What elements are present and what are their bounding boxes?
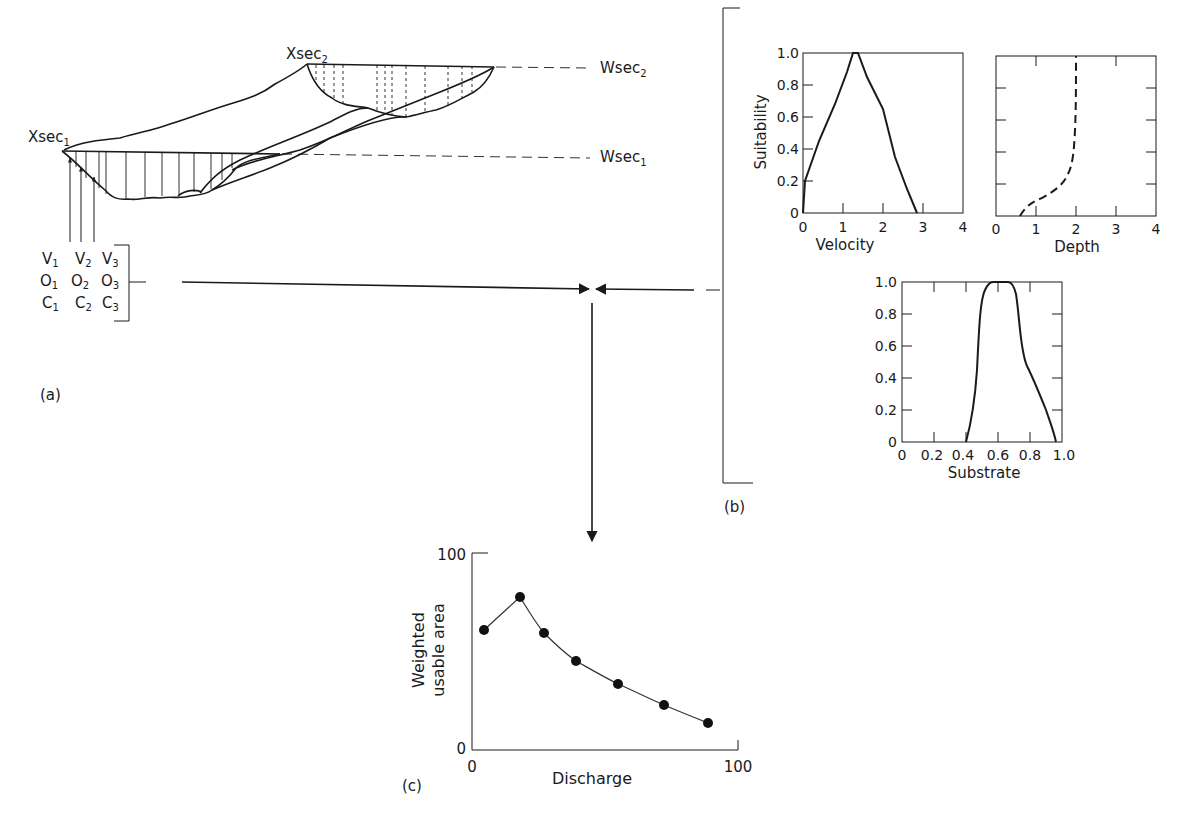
svg-text:0: 0 xyxy=(888,434,897,450)
wsec2-label: Wsec2 xyxy=(600,59,647,79)
svg-text:3: 3 xyxy=(919,219,928,235)
depth-axis-title: Depth xyxy=(1054,238,1100,256)
wsec1-dashed-line xyxy=(282,154,590,158)
svg-text:0: 0 xyxy=(467,758,477,776)
habitat-model-diagram: Xsec1 Xsec2 Wsec1 Wsec2 V1 V2 V3 O1 O2 O… xyxy=(0,0,1188,821)
svg-text:100: 100 xyxy=(724,758,753,776)
svg-text:2: 2 xyxy=(879,219,888,235)
svg-text:3: 3 xyxy=(1112,221,1121,237)
depth-suitability-chart: 0 1 2 3 4 Depth xyxy=(992,56,1161,256)
wua-axis-title-line1: Weighted xyxy=(409,612,428,688)
matrix-row-o: O1 O2 O3 xyxy=(40,272,119,293)
svg-text:2: 2 xyxy=(1072,221,1081,237)
measurement-arrows xyxy=(70,158,94,242)
suitability-axis-title: Suitability xyxy=(752,94,770,169)
svg-text:0: 0 xyxy=(456,740,466,758)
velocity-curve xyxy=(803,53,917,213)
xsec1-channel-bed xyxy=(62,151,280,199)
svg-text:1.0: 1.0 xyxy=(875,274,897,290)
panel-a-label: (a) xyxy=(40,386,61,404)
svg-text:0.8: 0.8 xyxy=(777,77,799,93)
svg-text:1: 1 xyxy=(1032,221,1041,237)
left-bank-line xyxy=(64,64,307,150)
substrate-suitability-chart: 0 0.2 0.4 0.6 0.8 1.0 0 0.2 0.4 0.6 0.8 … xyxy=(875,274,1075,482)
svg-text:100: 100 xyxy=(437,546,466,564)
arrow-from-suitability xyxy=(596,289,694,290)
wua-curve xyxy=(484,597,708,723)
svg-text:0: 0 xyxy=(992,221,1001,237)
svg-text:1: 1 xyxy=(839,219,848,235)
arrow-from-measurements xyxy=(182,282,589,289)
svg-text:0: 0 xyxy=(898,447,907,463)
velocity-axis-title: Velocity xyxy=(816,236,875,254)
wua-discharge-chart: 100 0 0 100 Discharge Weighted usable ar… xyxy=(409,546,752,788)
xsec2-label: Xsec2 xyxy=(286,45,328,65)
svg-text:4: 4 xyxy=(959,219,968,235)
xsec2-channel-bed xyxy=(307,64,494,117)
xsec2-verticals xyxy=(316,65,472,117)
xsec2-water-surface xyxy=(307,64,494,67)
svg-text:0.4: 0.4 xyxy=(777,141,799,157)
wsec1-label: Wsec1 xyxy=(600,148,647,168)
velocity-suitability-chart: 0 0.2 0.4 0.6 0.8 1.0 0 1 2 3 4 Velocity… xyxy=(752,45,968,254)
svg-text:1.0: 1.0 xyxy=(777,45,799,61)
matrix-row-v: V1 V2 V3 xyxy=(42,250,119,271)
substrate-axis-title: Substrate xyxy=(948,464,1021,482)
xsec1-water-surface xyxy=(62,151,280,154)
svg-text:0.6: 0.6 xyxy=(987,447,1009,463)
svg-text:0.8: 0.8 xyxy=(1019,447,1041,463)
svg-text:0.8: 0.8 xyxy=(875,306,897,322)
river-cross-sections xyxy=(62,64,494,199)
svg-text:4: 4 xyxy=(1152,221,1161,237)
wsec2-dashed-line xyxy=(496,67,590,68)
svg-text:0.6: 0.6 xyxy=(777,109,799,125)
substrate-curve xyxy=(966,282,1056,442)
xsec1-label: Xsec1 xyxy=(28,128,70,148)
svg-text:1.0: 1.0 xyxy=(1053,447,1075,463)
panel-b-label: (b) xyxy=(724,498,745,516)
svg-text:0: 0 xyxy=(799,219,808,235)
svg-text:0.2: 0.2 xyxy=(777,173,799,189)
panel-b-bracket xyxy=(723,8,753,483)
wua-axis-title-line2: usable area xyxy=(429,603,448,697)
svg-text:0.4: 0.4 xyxy=(875,370,897,386)
svg-text:0.2: 0.2 xyxy=(875,402,897,418)
svg-text:0.4: 0.4 xyxy=(952,447,974,463)
svg-text:0.2: 0.2 xyxy=(921,447,943,463)
wua-data-points xyxy=(479,592,713,728)
measurement-matrix: V1 V2 V3 O1 O2 O3 C1 C2 C3 xyxy=(40,245,146,321)
svg-text:0.6: 0.6 xyxy=(875,338,897,354)
discharge-axis-title: Discharge xyxy=(552,769,632,788)
panel-c-label: (c) xyxy=(402,777,422,795)
matrix-row-c: C1 C2 C3 xyxy=(42,294,119,315)
depth-curve xyxy=(1020,56,1076,216)
